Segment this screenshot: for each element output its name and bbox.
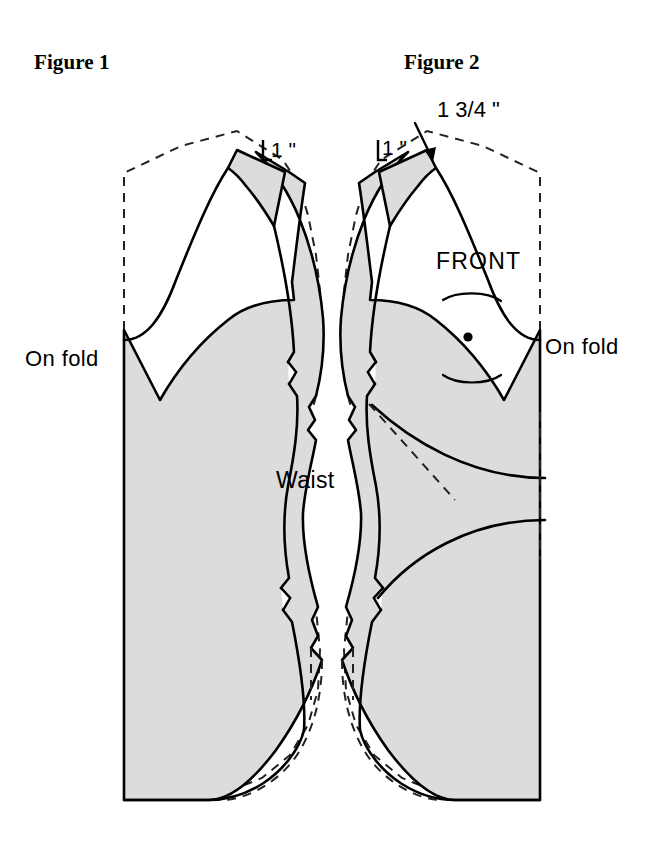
dart-arc-upper: [443, 293, 501, 301]
figure-1-group: [124, 131, 324, 800]
figure-2-shoulder-dimension-label: 1 ": [382, 136, 407, 160]
figure-1-armhole-curve: [124, 168, 228, 340]
figure-1-title: Figure 1: [34, 50, 110, 75]
figure-2-title: Figure 2: [404, 50, 480, 75]
figure-2-on-fold-label: On fold: [545, 334, 619, 360]
waist-label: Waist: [276, 467, 335, 494]
figure-2-shoulder-strap: [379, 150, 436, 226]
figure-1-on-fold-label: On fold: [25, 346, 99, 372]
bust-point-dot: [463, 332, 472, 341]
figure-2-group: [340, 131, 540, 800]
figure-2-neck-dimension-label: 1 3/4 ": [437, 97, 500, 123]
pattern-diagram-canvas: [0, 0, 645, 851]
figure-1-shoulder-dimension-label: 1 ": [271, 138, 296, 162]
figure-2-front-label: FRONT: [436, 248, 521, 275]
